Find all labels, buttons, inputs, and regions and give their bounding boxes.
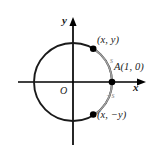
x-axis-label: x xyxy=(133,82,139,93)
point-lower-label: (x, −y) xyxy=(97,110,126,121)
y-axis-arrowhead xyxy=(69,17,76,26)
arc-positive-s-label: s xyxy=(110,57,113,65)
figure-canvas xyxy=(0,0,158,149)
arc-positive-s xyxy=(93,49,112,82)
point-A-marker xyxy=(109,79,116,86)
arc-negative-s-label: −s xyxy=(106,92,115,100)
point-upper-marker xyxy=(90,45,97,52)
point-upper-label: (x, y) xyxy=(97,35,119,46)
unit-circle-figure: y x O (x, y) A(1, 0) (x, −y) s −s xyxy=(0,0,158,149)
point-a-label: A(1, 0) xyxy=(114,62,144,73)
origin-label: O xyxy=(60,86,67,96)
point-lower-marker xyxy=(90,111,97,118)
y-axis-label: y xyxy=(62,15,67,26)
